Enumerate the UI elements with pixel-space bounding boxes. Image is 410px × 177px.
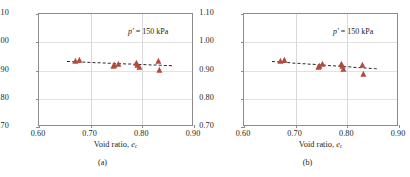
x-axis-label-b: Void ratio, ec (243, 140, 398, 149)
y-tick-label: 1.00 (180, 37, 214, 45)
y-tick-mark (241, 42, 244, 43)
y-tick-mark (241, 71, 244, 72)
data-point-marker (77, 57, 83, 63)
y-tick-mark (36, 42, 39, 43)
data-point-marker (282, 57, 288, 63)
data-point-marker (115, 61, 121, 67)
x-tick-label: 0.90 (378, 130, 410, 138)
y-tick-label: 0.90 (0, 66, 9, 74)
gridline-vertical (296, 14, 297, 125)
data-point-marker (156, 67, 162, 73)
y-tick-mark (36, 14, 39, 15)
y-tick-label: 0.70 (180, 122, 214, 130)
plot-area-a (38, 13, 193, 126)
gridline-horizontal (244, 71, 397, 72)
plot-area-b (243, 13, 398, 126)
gridline-vertical (91, 14, 92, 125)
panel-b: [G0/F(e)]satur / [G0/F(e)]D Void ratio, … (205, 0, 410, 177)
x-tick-label: 0.60 (223, 130, 263, 138)
data-point-marker (319, 61, 325, 67)
y-tick-label: 0.70 (0, 122, 9, 130)
panel-caption-b: (b) (205, 158, 410, 167)
x-tick-mark (142, 125, 143, 128)
gridline-horizontal (244, 42, 397, 43)
data-point-marker (136, 64, 142, 70)
x-tick-mark (39, 125, 40, 128)
x-tick-label: 0.80 (121, 130, 161, 138)
y-axis-label-b: [G0/F(e)]satur / [G0/F(e)]D (215, 13, 229, 126)
x-tick-label: 0.60 (18, 130, 58, 138)
y-tick-label: 1.10 (180, 9, 214, 17)
x-tick-mark (244, 125, 245, 128)
y-tick-mark (36, 71, 39, 72)
x-tick-mark (91, 125, 92, 128)
data-point-marker (155, 58, 161, 64)
y-tick-mark (241, 99, 244, 100)
gridline-horizontal (39, 42, 192, 43)
data-point-marker (361, 71, 367, 77)
gridline-horizontal (39, 99, 192, 100)
data-point-marker (359, 62, 365, 68)
x-tick-label: 0.70 (275, 130, 315, 138)
panel-caption-a: (a) (0, 158, 205, 167)
y-axis-label-a: [G0]satur / [G0]D (10, 13, 24, 126)
x-axis-label-a: Void ratio, ec (38, 140, 193, 149)
x-tick-mark (347, 125, 348, 128)
x-tick-mark (399, 125, 400, 128)
gridline-horizontal (244, 99, 397, 100)
x-tick-label: 0.70 (70, 130, 110, 138)
annotation-pressure-a: p′ = 150 kPa (128, 27, 168, 36)
figure-two-panel-chart: [G0]satur / [G0]D Void ratio, ec p′ = 15… (0, 0, 410, 177)
y-tick-label: 0.80 (180, 94, 214, 102)
y-tick-mark (241, 14, 244, 15)
x-tick-label: 0.80 (326, 130, 366, 138)
gridline-horizontal (39, 71, 192, 72)
y-tick-label: 0.80 (0, 94, 9, 102)
y-tick-label: 1.10 (0, 9, 9, 17)
data-point-marker (341, 66, 347, 72)
y-tick-label: 0.90 (180, 66, 214, 74)
annotation-pressure-b: p′ = 150 kPa (333, 27, 373, 36)
panel-a: [G0]satur / [G0]D Void ratio, ec p′ = 15… (0, 0, 205, 177)
y-tick-label: 1.00 (0, 37, 9, 45)
x-tick-mark (296, 125, 297, 128)
y-tick-mark (36, 99, 39, 100)
